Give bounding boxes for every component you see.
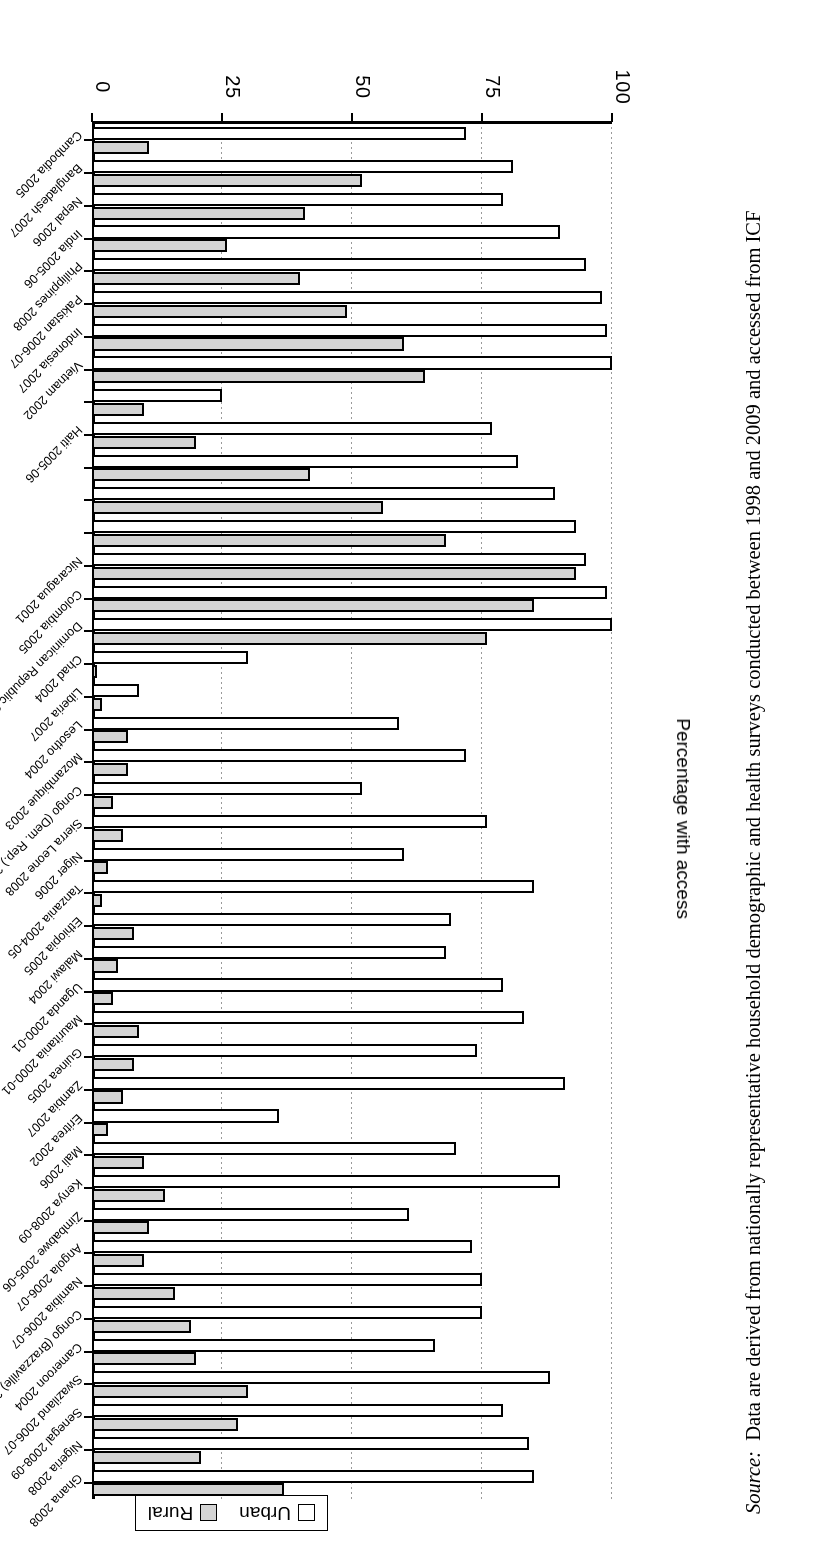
bar-urban bbox=[92, 356, 612, 369]
legend-label-rural: Rural bbox=[148, 1502, 193, 1524]
bar-urban bbox=[92, 520, 576, 533]
bar-row-rural bbox=[92, 272, 612, 285]
bar-row-urban bbox=[92, 913, 612, 926]
bar-urban bbox=[92, 160, 513, 173]
bar-row-urban bbox=[92, 815, 612, 828]
bar-rural bbox=[92, 829, 123, 842]
bar-rural bbox=[92, 1385, 248, 1398]
bar-row-urban bbox=[92, 553, 612, 566]
bar-urban bbox=[92, 749, 466, 762]
bar-row-urban bbox=[92, 389, 612, 402]
bar-row-urban bbox=[92, 1208, 612, 1221]
legend-swatch-urban bbox=[298, 1505, 315, 1522]
value-tick bbox=[481, 113, 483, 122]
bar-urban bbox=[92, 291, 602, 304]
bar-row-rural bbox=[92, 1025, 612, 1038]
bar-rural bbox=[92, 927, 134, 940]
bar-row-urban bbox=[92, 782, 612, 795]
bar-row-rural bbox=[92, 141, 612, 154]
bar-row-rural bbox=[92, 305, 612, 318]
bar-urban bbox=[92, 782, 362, 795]
bar-rural bbox=[92, 174, 362, 187]
bar-rural bbox=[92, 763, 128, 776]
value-tick bbox=[91, 113, 93, 122]
bar-rural bbox=[92, 632, 487, 645]
bar-rural bbox=[92, 730, 128, 743]
bar-row-rural bbox=[92, 174, 612, 187]
bar-rural bbox=[92, 861, 108, 874]
bar-rural bbox=[92, 436, 196, 449]
bar-row-urban bbox=[92, 1044, 612, 1057]
bar-row-urban bbox=[92, 127, 612, 140]
legend-swatch-rural bbox=[200, 1505, 217, 1522]
bar-row-urban bbox=[92, 618, 612, 631]
bar-urban bbox=[92, 422, 492, 435]
bar-row-rural bbox=[92, 403, 612, 416]
bar-rural bbox=[92, 698, 102, 711]
bar-rural bbox=[92, 1058, 134, 1071]
value-tick bbox=[611, 113, 613, 122]
bar-row-rural bbox=[92, 1320, 612, 1333]
bar-row-urban bbox=[92, 1142, 612, 1155]
bar-rural bbox=[92, 141, 149, 154]
legend-label-urban: Urban bbox=[239, 1502, 291, 1524]
bar-row-rural bbox=[92, 337, 612, 350]
bar-rural bbox=[92, 599, 534, 612]
bar-row-rural bbox=[92, 1156, 612, 1169]
bar-row-rural bbox=[92, 1418, 612, 1431]
bar-row-rural bbox=[92, 1221, 612, 1234]
bar-urban bbox=[92, 455, 518, 468]
bar-row-urban bbox=[92, 1011, 612, 1024]
bar-urban bbox=[92, 1142, 456, 1155]
bar-rural bbox=[92, 501, 383, 514]
bar-urban bbox=[92, 880, 534, 893]
bar-row-urban bbox=[92, 1306, 612, 1319]
bar-row-rural bbox=[92, 567, 612, 580]
bar-rural bbox=[92, 1025, 139, 1038]
bar-urban bbox=[92, 1273, 482, 1286]
bar-row-rural bbox=[92, 665, 612, 678]
bar-urban bbox=[92, 815, 487, 828]
bar-urban bbox=[92, 1208, 409, 1221]
bar-row-rural bbox=[92, 1254, 612, 1267]
bar-row-rural bbox=[92, 959, 612, 972]
bar-urban bbox=[92, 1437, 529, 1450]
bar-urban bbox=[92, 193, 503, 206]
bar-urban bbox=[92, 1404, 503, 1417]
bar-row-urban bbox=[92, 651, 612, 664]
bar-rural bbox=[92, 796, 113, 809]
bar-rural bbox=[92, 1483, 284, 1496]
bar-rural bbox=[92, 337, 404, 350]
bar-row-rural bbox=[92, 730, 612, 743]
bar-row-urban bbox=[92, 880, 612, 893]
bar-row-urban bbox=[92, 1404, 612, 1417]
bar-rural bbox=[92, 1451, 201, 1464]
bar-rural bbox=[92, 1156, 144, 1169]
bar-row-urban bbox=[92, 978, 612, 991]
value-tick-label: 25 bbox=[221, 75, 244, 98]
bar-urban bbox=[92, 226, 560, 239]
bar-row-urban bbox=[92, 1470, 612, 1483]
bar-row-urban bbox=[92, 946, 612, 959]
source-text: Data are derived from nationally represe… bbox=[742, 211, 764, 1441]
bar-rural bbox=[92, 207, 305, 220]
bar-urban bbox=[92, 127, 466, 140]
bar-urban bbox=[92, 848, 404, 861]
bar-rural bbox=[92, 305, 347, 318]
bar-row-rural bbox=[92, 1451, 612, 1464]
bar-row-urban bbox=[92, 684, 612, 697]
bar-row-urban bbox=[92, 193, 612, 206]
bar-urban bbox=[92, 978, 503, 991]
bar-rural bbox=[92, 239, 227, 252]
legend-item-urban: Urban bbox=[239, 1502, 315, 1524]
value-tick-label: 100 bbox=[611, 70, 634, 105]
bar-row-rural bbox=[92, 239, 612, 252]
bar-urban bbox=[92, 1339, 435, 1352]
bar-urban bbox=[92, 946, 446, 959]
value-tick-label: 75 bbox=[481, 75, 504, 98]
bar-urban bbox=[92, 389, 222, 402]
bar-urban bbox=[92, 258, 586, 271]
bar-row-rural bbox=[92, 927, 612, 940]
bar-urban bbox=[92, 651, 248, 664]
bar-row-urban bbox=[92, 160, 612, 173]
